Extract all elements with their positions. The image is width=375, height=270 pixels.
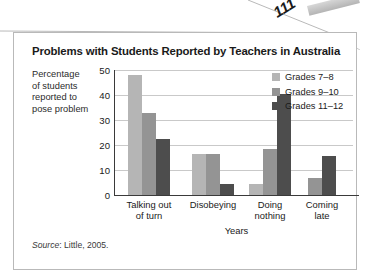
y-axis-tick-label: 50 (99, 65, 110, 76)
bar-group (192, 70, 234, 195)
bar (156, 139, 170, 195)
x-axis-category-label: Cominglate (286, 199, 358, 222)
y-axis-tick-label: 0 (105, 190, 110, 201)
bar (142, 113, 156, 196)
bar (206, 154, 220, 195)
y-axis-caption: Percentage of students reported to pose … (32, 69, 108, 115)
bar (308, 178, 322, 196)
bar (220, 184, 234, 195)
bar (263, 149, 277, 195)
bar-group (128, 70, 170, 195)
bar (322, 156, 336, 195)
legend-label: Grades 11–12 (285, 101, 343, 111)
figure-frame: Problems with Students Reported by Teach… (13, 32, 357, 270)
source-note: Source: Little, 2005. (32, 240, 108, 250)
x-axis-category-label-line: late (286, 210, 358, 221)
legend-item: Grades 11–12 (272, 100, 343, 112)
x-axis-category-label-line: of turn (113, 210, 185, 221)
legend-item: Grades 7–8 (272, 71, 343, 83)
bar (192, 154, 206, 195)
x-axis-category-labels: Talking outof turnDisobeyingDoingnothing… (114, 199, 359, 227)
x-axis-category-label: Talking outof turn (113, 199, 185, 222)
bar (249, 184, 263, 195)
y-axis-caption-line: pose problem (32, 104, 108, 116)
y-axis-caption-line: reported to (32, 92, 108, 104)
legend-label: Grades 9–10 (285, 87, 339, 97)
x-axis-line (114, 195, 359, 196)
legend-swatch-icon (272, 88, 280, 96)
x-axis-title: Years (114, 225, 359, 236)
legend-item: Grades 9–10 (272, 86, 343, 98)
legend-label: Grades 7–8 (285, 72, 334, 82)
y-axis-caption-line: Percentage (32, 69, 108, 81)
y-axis-tick-label: 30 (99, 115, 110, 126)
chart-title: Problems with Students Reported by Teach… (32, 45, 342, 57)
x-axis-category-label-line: Coming (286, 199, 358, 210)
y-axis-tick-label: 10 (99, 165, 110, 176)
y-axis-tick-label: 20 (99, 140, 110, 151)
x-axis-category-label-line: Talking out (113, 199, 185, 210)
legend-swatch-icon (272, 102, 280, 110)
chart-legend: Grades 7–8Grades 9–10Grades 11–12 (272, 71, 343, 115)
y-axis-caption-line: of students (32, 81, 108, 93)
y-axis-line (114, 70, 115, 196)
y-axis-tick-label: 40 (99, 90, 110, 101)
legend-swatch-icon (272, 73, 280, 81)
bar (128, 75, 142, 195)
source-text: : Little, 2005. (59, 240, 108, 250)
source-label: Source (32, 240, 59, 250)
